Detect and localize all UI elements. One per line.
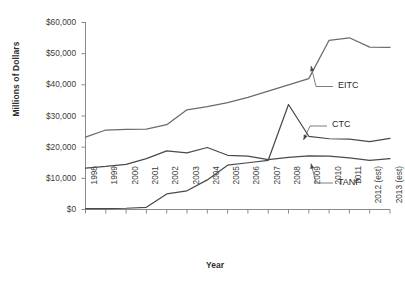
series-label-ctc: CTC [332,119,351,129]
plot-area [0,0,405,282]
series-label-eitc: EITC [338,80,359,90]
series-label-tanf: TANF [338,177,361,187]
series-line-tanf [86,147,391,168]
leader-arrow-ctc [304,134,308,140]
line-chart: Millions of Dollars Year $60,000$50,000$… [0,0,405,282]
